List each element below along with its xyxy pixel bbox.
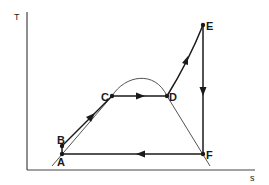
arrow-icon — [136, 93, 145, 100]
arrow-icon — [182, 56, 188, 65]
point-c — [110, 94, 114, 98]
label-a: A — [57, 156, 65, 168]
saturation-dome — [52, 78, 210, 166]
label-d: D — [169, 91, 177, 103]
path-b-c — [62, 96, 112, 146]
ts-diagram: T s A B C D E F — [0, 0, 269, 185]
arrow-icon — [200, 87, 207, 96]
y-axis-label: T — [14, 12, 20, 22]
x-axis-label: s — [250, 173, 255, 183]
point-e — [201, 23, 205, 27]
arrow-icon — [136, 151, 145, 158]
label-b: B — [57, 134, 65, 146]
label-f: F — [206, 149, 213, 161]
label-e: E — [206, 20, 213, 32]
point-f — [201, 152, 205, 156]
label-c: C — [101, 91, 109, 103]
